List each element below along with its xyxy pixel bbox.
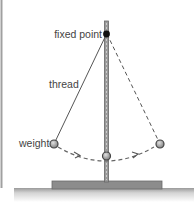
weight-bob-center (103, 152, 111, 160)
ground (14, 188, 194, 202)
weight-bob-left (50, 140, 58, 148)
fixed-point-label: fixed point (54, 28, 102, 40)
weight-bob-right (156, 140, 164, 148)
thread-dashed-right (107, 34, 160, 144)
weight-label: weight (18, 137, 49, 149)
pendulum-diagram: fixed point thread weight (0, 0, 194, 202)
thread-label: thread (49, 78, 79, 90)
fixed-point-dot (103, 31, 110, 38)
